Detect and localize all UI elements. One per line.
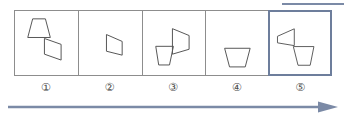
index-label-1: ① <box>14 80 78 96</box>
trapezoid-downward-narrowing <box>225 48 251 67</box>
cell-figure-3 <box>143 11 206 76</box>
trapezoid-pointing-right <box>172 29 189 55</box>
index-label-4: ④ <box>205 80 269 96</box>
cell-figure-1 <box>15 11 78 76</box>
index-label-2: ② <box>78 80 142 96</box>
trapezoid-downward-narrowing <box>294 47 315 66</box>
index-label-5: ⑤ <box>268 80 332 96</box>
index-label-row: ①②③④⑤ <box>14 80 332 96</box>
trapezoid-downward-narrowing <box>155 46 173 65</box>
trapezoid-pointing-right <box>44 38 61 60</box>
sequence-cell-4[interactable] <box>205 10 269 76</box>
arrow-head-icon <box>318 102 338 113</box>
progression-arrow <box>8 100 338 114</box>
cell-figure-2 <box>79 11 142 76</box>
cell-figure-5 <box>270 12 330 74</box>
trapezoid-upright <box>28 19 51 38</box>
sequence-strip <box>14 10 332 76</box>
index-label-3: ③ <box>141 80 205 96</box>
sequence-cell-2[interactable] <box>78 10 142 76</box>
trapezoid-pointing-right <box>106 35 122 56</box>
sequence-cell-3[interactable] <box>142 10 206 76</box>
sequence-cell-1[interactable] <box>14 10 78 76</box>
cell-figure-4 <box>206 11 269 76</box>
sequence-cell-5[interactable] <box>268 10 332 76</box>
top-rule <box>282 3 344 5</box>
trapezoid-pointing-left <box>278 29 295 46</box>
